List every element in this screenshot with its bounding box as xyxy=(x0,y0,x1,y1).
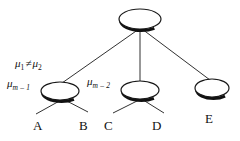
tree-diagram: μ1≠μ2 μm – 1 μm – 2 A B C D E xyxy=(0,0,240,141)
leaf-label-c: C xyxy=(104,119,113,132)
leaf-label-d: D xyxy=(152,119,161,132)
node-right-ellipse xyxy=(195,79,229,97)
node-right[interactable] xyxy=(195,79,231,99)
root-edges xyxy=(62,29,210,83)
mu-subscript-2: 2 xyxy=(38,63,42,72)
node-mid[interactable] xyxy=(121,81,161,101)
leaf-label-e: E xyxy=(205,112,213,125)
mu-subscript-m1: m – 1 xyxy=(13,83,31,92)
leaf-label-a: A xyxy=(33,119,42,132)
node-left-ellipse xyxy=(41,82,79,100)
node-mid-ellipse xyxy=(121,81,159,99)
annotation-mu-m-minus-1: μm – 1 xyxy=(7,78,30,92)
node-left[interactable] xyxy=(41,82,81,102)
leaf-label-b: B xyxy=(79,119,88,132)
annotation-mu-m-minus-2: μm – 2 xyxy=(87,76,110,90)
not-equal-operator: ≠ xyxy=(24,57,32,69)
mu-subscript-m2: m – 2 xyxy=(93,81,111,90)
edge-root-to-left xyxy=(62,29,139,83)
node-root[interactable] xyxy=(119,9,163,31)
annotation-mu-inequality: μ1≠μ2 xyxy=(15,58,42,72)
node-root-ellipse xyxy=(119,9,161,29)
edge-root-to-right xyxy=(142,29,210,80)
